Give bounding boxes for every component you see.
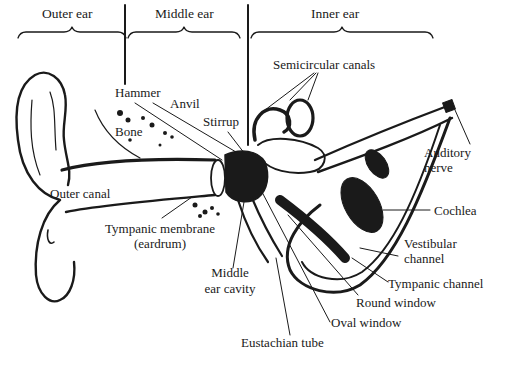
- middle-ear-mass: [225, 151, 268, 202]
- label-vestibular-channel-line2: channel: [404, 251, 444, 266]
- label-auditory-nerve-line1: Auditory: [424, 145, 471, 160]
- label-middle-ear-cavity-line1: Middle: [200, 265, 260, 280]
- cochlea-coil-1: [360, 146, 393, 183]
- pinna-inner-fold: [31, 92, 56, 175]
- brace-inner-ear: [251, 27, 433, 38]
- label-tympanic-channel: Tympanic channel: [388, 276, 483, 291]
- label-bone: Bone: [115, 124, 142, 139]
- leader-semicircular-b: [290, 73, 316, 100]
- label-middle-ear-cavity-line2: ear cavity: [195, 281, 265, 296]
- label-vestibular-channel-line1: Vestibular: [404, 236, 457, 251]
- outer-canal-top: [62, 159, 215, 170]
- leader-eustachian: [276, 258, 290, 335]
- label-semicircular-canals: Semicircular canals: [273, 57, 375, 72]
- section-label-middle-ear: Middle ear: [155, 6, 214, 21]
- label-outer-canal: Outer canal: [50, 186, 110, 201]
- semicircular-canal-1: [254, 109, 290, 140]
- cochlea-coil-3: [280, 200, 345, 258]
- leader-hammer: [135, 103, 222, 160]
- leader-semicircular-c: [308, 73, 318, 100]
- ear-anatomy-diagram: Outer ear Middle ear Inner ear Hammer An…: [0, 0, 509, 368]
- label-hammer: Hammer: [115, 85, 160, 100]
- label-round-window: Round window: [356, 295, 436, 310]
- ear-illustration: [0, 0, 509, 368]
- label-tympanic-membrane-line2: (eardrum): [92, 236, 228, 251]
- label-oval-window: Oval window: [331, 315, 401, 330]
- label-stirrup: Stirrup: [203, 114, 239, 129]
- eustachian-tube-shape: [238, 198, 282, 262]
- label-cochlea: Cochlea: [434, 203, 477, 218]
- label-auditory-nerve-line2: nerve: [424, 160, 453, 175]
- label-anvil: Anvil: [170, 96, 200, 111]
- label-tympanic-membrane-line1: Tympanic membrane: [92, 221, 228, 236]
- auditory-nerve-end: [443, 100, 456, 113]
- label-eustachian-tube: Eustachian tube: [241, 335, 324, 350]
- tympanic-membrane-shape: [211, 160, 225, 196]
- brace-middle-ear: [128, 27, 240, 38]
- section-label-outer-ear: Outer ear: [42, 6, 93, 21]
- leader-auditory-nerve: [455, 110, 470, 144]
- semicircular-canal-2: [287, 100, 313, 136]
- pinna-lobe-fold: [47, 230, 54, 243]
- vestibule: [258, 139, 325, 173]
- brace-outer-ear: [18, 27, 126, 38]
- section-label-inner-ear: Inner ear: [311, 6, 359, 21]
- cochlea-coil-2: [332, 171, 391, 240]
